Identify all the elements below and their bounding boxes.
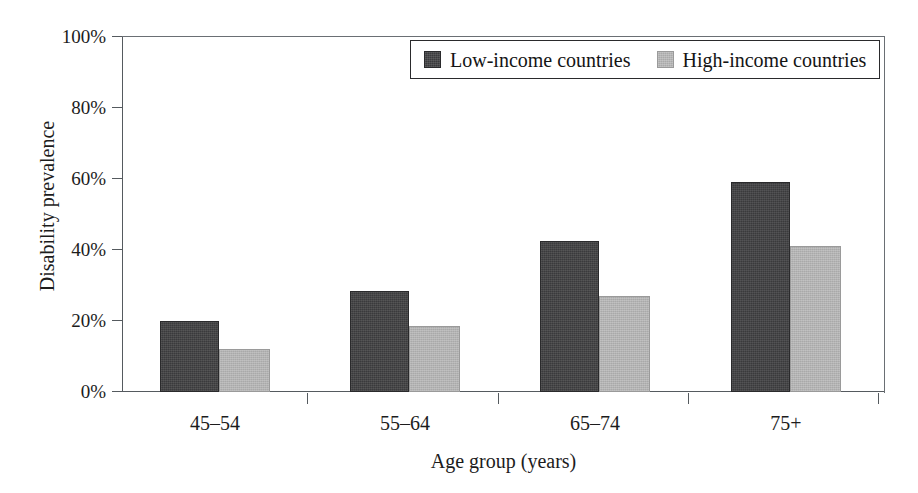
bar-low-55-64	[350, 291, 409, 393]
x-tick-label-45-54: 45–54	[115, 412, 315, 434]
y-tick-0	[112, 391, 122, 392]
legend-swatch-low-income-icon	[424, 51, 441, 68]
x-tick-label-65-74: 65–74	[495, 412, 695, 434]
bar-high-75plus	[790, 246, 841, 392]
plot-right-border	[884, 36, 885, 393]
chart-legend: Low-income countries High-income countri…	[410, 40, 880, 79]
legend-entry-high-income: High-income countries	[657, 49, 867, 71]
bar-low-75plus	[731, 182, 790, 392]
y-tick-20	[112, 320, 122, 321]
x-tick-2	[498, 393, 499, 404]
bar-high-65-74	[599, 296, 650, 392]
x-tick-4	[878, 393, 879, 404]
y-tick-40	[112, 249, 122, 250]
bar-high-55-64	[409, 326, 460, 392]
y-tick-100	[112, 36, 122, 37]
bar-low-45-54	[160, 321, 219, 392]
y-tick-60	[112, 178, 122, 179]
y-tick-80	[112, 107, 122, 108]
x-axis-title: Age group (years)	[122, 450, 885, 472]
legend-label-high-income: High-income countries	[683, 49, 867, 71]
y-tick-label-0: 0%	[36, 382, 106, 401]
legend-entry-low-income: Low-income countries	[424, 49, 631, 71]
bar-low-65-74	[540, 241, 599, 392]
legend-label-low-income: Low-income countries	[450, 49, 631, 71]
bar-high-45-54	[219, 349, 270, 392]
plot-top-border	[122, 36, 885, 37]
x-tick-label-55-64: 55–64	[305, 412, 505, 434]
x-tick-1	[307, 393, 308, 404]
x-tick-3	[688, 393, 689, 404]
y-axis-title: Disability prevalence	[37, 76, 57, 336]
y-tick-label-100: 100%	[36, 27, 106, 46]
legend-swatch-high-income-icon	[657, 51, 674, 68]
bar-chart-figure: 100% 80% 60% 40% 20% 0% Disability preva…	[0, 0, 918, 493]
x-tick-label-75plus: 75+	[686, 412, 886, 434]
